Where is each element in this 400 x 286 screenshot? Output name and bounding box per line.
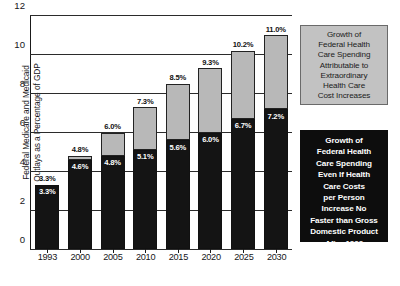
bar-segment-baseline[interactable]: 5.6% (166, 140, 190, 249)
bar-segment-extraordinary[interactable] (198, 68, 222, 132)
stacked-bar[interactable]: 7.2%11.0% (264, 35, 288, 249)
bar-segment-baseline[interactable]: 4.8% (101, 156, 125, 249)
stacked-bar[interactable]: 3.3%3.3% (35, 185, 59, 249)
bar-baseline-value-label: 6.7% (235, 121, 252, 130)
bar-slot: 3.3%3.3% (34, 16, 60, 249)
bar-total-value-label: 8.5% (170, 73, 187, 82)
stacked-bar[interactable]: 4.8%6.0% (101, 133, 125, 250)
bar-baseline-value-label: 3.3% (39, 187, 56, 196)
y-tick-label-6: 6 (20, 117, 25, 128)
y-tick-label-2: 2 (20, 195, 25, 206)
bar-total-value-label: 4.8% (72, 145, 89, 154)
bar-segment-extraordinary[interactable] (264, 35, 288, 109)
bar-total-value-label: 9.3% (202, 58, 219, 67)
bar-baseline-value-label: 4.6% (72, 162, 89, 171)
bar-slot: 7.2%11.0% (263, 16, 289, 249)
stacked-bar[interactable]: 4.6%4.8% (68, 156, 92, 249)
x-axis-tick-label: 2005 (100, 252, 126, 262)
bar-total-value-label: 3.3% (39, 174, 56, 183)
y-tick-label-0: 0 (20, 234, 25, 245)
y-axis-title-wrapper: Federal Medicare and Medicaid Outlays as… (0, 0, 30, 250)
bar-total-value-label: 6.0% (104, 122, 121, 131)
bar-slot: 4.6%4.8% (67, 16, 93, 249)
bar-slot: 5.6%8.5% (165, 16, 191, 249)
y-tick-label-8: 8 (20, 78, 25, 89)
x-axis-tick-label: 2030 (264, 252, 290, 262)
legend-baseline-growth: Growth of Federal Health Care Spending E… (300, 130, 388, 242)
bar-total-value-label: 11.0% (266, 25, 286, 34)
bar-segment-extraordinary[interactable] (231, 51, 255, 119)
plot-area: 0 2 4 6 8 10 12 3.3%3.3%4.6%4.8%4.8%6.0%… (30, 16, 292, 250)
bar-baseline-value-label: 7.2% (267, 112, 284, 121)
bar-total-value-label: 7.3% (137, 97, 154, 106)
x-axis-tick-label: 2000 (67, 252, 93, 262)
legend-extraordinary-growth: Growth of Federal Health Care Spending A… (300, 25, 388, 105)
y-tick-label-12: 12 (14, 0, 25, 11)
y-tick-label-10: 10 (14, 39, 25, 50)
x-axis-tick-label: 1993 (34, 252, 60, 262)
x-axis-tick-label: 2010 (133, 252, 159, 262)
bar-total-value-label: 10.2% (233, 40, 254, 49)
x-axis-tick-label: 2025 (231, 252, 257, 262)
bar-baseline-value-label: 5.6% (170, 143, 187, 152)
bar-baseline-value-label: 5.1% (137, 152, 154, 161)
bar-segment-baseline[interactable]: 7.2% (264, 109, 288, 249)
y-tick-label-4: 4 (20, 156, 25, 167)
bar-slot: 6.7%10.2% (230, 16, 256, 249)
bar-segment-baseline[interactable]: 4.6% (68, 160, 92, 249)
bar-segment-baseline[interactable]: 6.0% (198, 133, 222, 249)
chart-page: Federal Medicare and Medicaid Outlays as… (0, 0, 400, 286)
bar-segment-extraordinary[interactable] (101, 133, 125, 156)
bar-segment-extraordinary[interactable] (166, 84, 190, 140)
bar-slot: 6.0%9.3% (197, 16, 223, 249)
x-axis-tick-label: 2015 (165, 252, 191, 262)
bar-baseline-value-label: 4.8% (104, 158, 121, 167)
bar-segment-extraordinary[interactable] (133, 107, 157, 150)
gridline-0 (30, 249, 292, 250)
bar-segment-baseline[interactable]: 6.7% (231, 119, 255, 249)
stacked-bar[interactable]: 5.6%8.5% (166, 84, 190, 249)
bar-baseline-value-label: 6.0% (202, 135, 219, 144)
bar-slot: 5.1%7.3% (132, 16, 158, 249)
bar-slot: 4.8%6.0% (100, 16, 126, 249)
bar-segment-baseline[interactable]: 3.3% (35, 185, 59, 249)
bar-group: 3.3%3.3%4.6%4.8%4.8%6.0%5.1%7.3%5.6%8.5%… (31, 16, 292, 249)
stacked-bar[interactable]: 5.1%7.3% (133, 107, 157, 249)
bar-segment-baseline[interactable]: 5.1% (133, 150, 157, 249)
x-axis-tick-label: 2020 (198, 252, 224, 262)
stacked-bar[interactable]: 6.7%10.2% (231, 51, 255, 249)
x-axis-labels: 19932000200520102015202020252030 (31, 252, 293, 262)
stacked-bar[interactable]: 6.0%9.3% (198, 68, 222, 249)
